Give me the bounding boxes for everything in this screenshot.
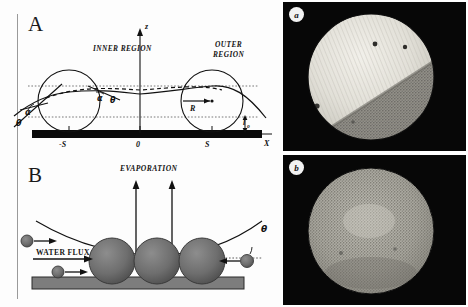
evaporation-arrowhead-right [169, 180, 176, 189]
colloid-particle-left [89, 238, 135, 284]
theta-angle-arc [250, 247, 252, 254]
micrograph-b: b [283, 155, 466, 305]
tracer-particle-upper-left [21, 235, 33, 247]
figure-canvas: A INNER REGION OUTER REGION z X 0 -S S R… [0, 0, 468, 307]
panel-c-composite: C [281, 0, 468, 307]
dashed-profile-curve [46, 87, 222, 98]
left-circle [38, 70, 100, 132]
substrate-bar [32, 130, 262, 138]
micrograph-a-graphic [283, 2, 466, 151]
tracer-arrowhead-lower-left [80, 269, 88, 275]
panel-a-b-composite: A INNER REGION OUTER REGION z X 0 -S S R… [0, 0, 281, 307]
panel-a-drawing [0, 0, 281, 160]
right-circle-center-dot [210, 99, 213, 102]
panel-b-drawing [0, 155, 281, 307]
tracer-particle-lower-left [52, 266, 64, 278]
micrograph-b-graphic [283, 155, 466, 305]
tracer-arrowhead-upper-left [49, 238, 57, 244]
evaporation-arrowhead-left [133, 180, 140, 189]
micrograph-b-tag: b [289, 160, 304, 175]
colloid-particle-center [134, 238, 180, 284]
tracer-particle-right [241, 255, 254, 268]
z-axis-arrowhead [137, 28, 143, 36]
micrograph-a-tag: a [289, 7, 304, 22]
height-arrow-up [243, 115, 248, 120]
micrograph-a: a [283, 2, 466, 151]
colloid-particle-right [179, 238, 225, 284]
